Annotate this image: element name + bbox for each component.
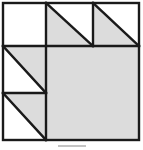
geometric-figure-container: Geometric tiling figure Square subdivide… — [0, 0, 143, 150]
geometric-figure-svg: Geometric tiling figure Square subdivide… — [0, 0, 143, 150]
cell-top-left-blank — [3, 3, 46, 46]
caption-sliver — [58, 145, 86, 147]
cell-bottom-right-square — [46, 46, 139, 140]
